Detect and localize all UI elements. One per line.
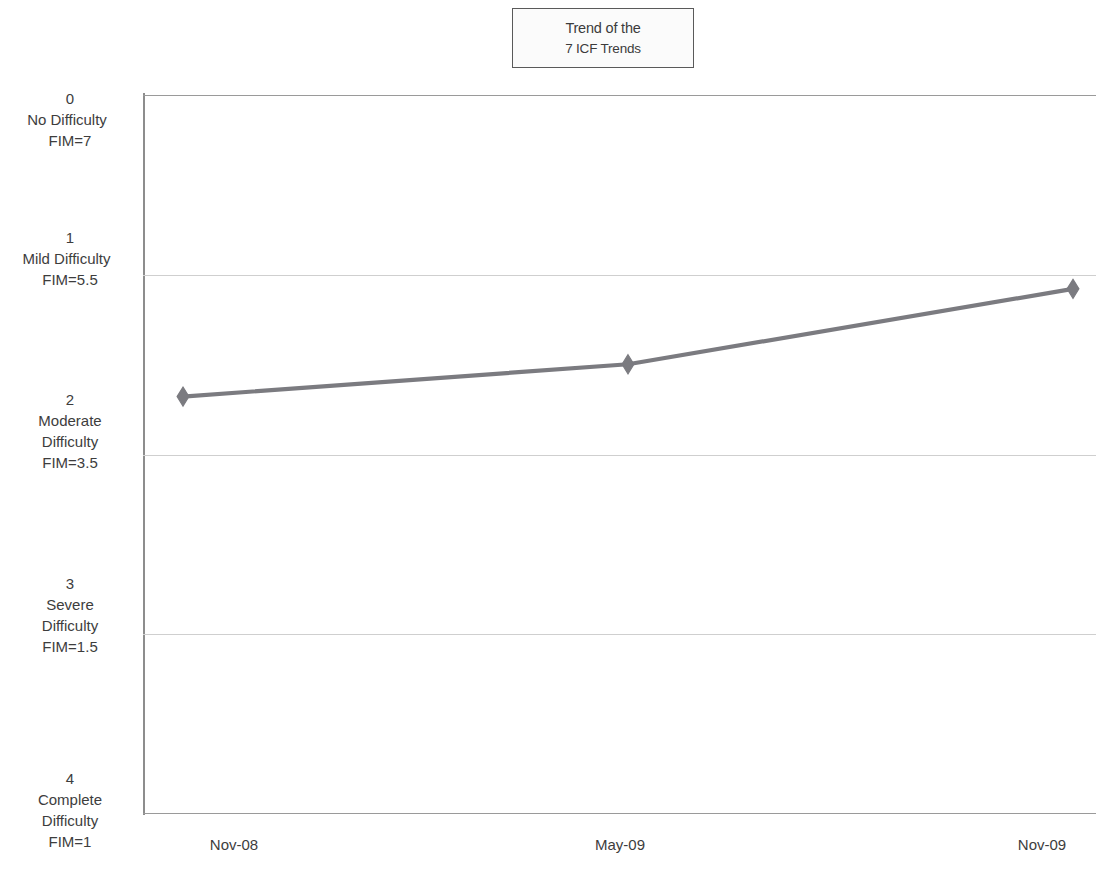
x-tick-label-2: May-09 (595, 836, 645, 853)
y-axis-line (143, 93, 145, 815)
series-data-point (1067, 279, 1079, 298)
series-data-point (622, 355, 634, 374)
y-tick-3-value: 3 (0, 573, 140, 594)
y-tick-4-fim: FIM=1 (0, 831, 140, 852)
y-tick-label-1: 1 Mild Difficulty FIM=5.5 (0, 227, 140, 290)
y-tick-2-fim: FIM=3.5 (0, 452, 140, 473)
x-tick-label-1: Nov-08 (210, 836, 258, 853)
y-tick-label-3: 3 Severe Difficulty FIM=1.5 (0, 573, 140, 657)
series-line-7-icf-trends (183, 289, 1073, 397)
gridline-0 (143, 95, 1096, 96)
y-tick-3-fim: FIM=1.5 (0, 636, 140, 657)
series-layer (0, 0, 1096, 873)
y-tick-3-category: Severe (0, 594, 140, 615)
gridline-1 (143, 275, 1096, 276)
y-tick-4-category: Complete (0, 789, 140, 810)
y-tick-0-fim: FIM=7 (0, 130, 140, 151)
chart-title-line-1: Trend of the (565, 18, 640, 39)
chart-title-line-2: 7 ICF Trends (565, 39, 641, 59)
x-tick-label-3: Nov-09 (1018, 836, 1066, 853)
y-tick-label-0: 0 No Difficulty FIM=7 (0, 88, 140, 151)
y-tick-3-category-cont: Difficulty (0, 615, 140, 636)
y-tick-2-category: Moderate (0, 410, 140, 431)
y-tick-4-value: 4 (0, 768, 140, 789)
y-tick-2-value: 2 (0, 389, 140, 410)
gridline-3 (143, 634, 1096, 635)
y-tick-label-2: 2 Moderate Difficulty FIM=3.5 (0, 389, 140, 473)
series-markers (177, 279, 1079, 406)
chart-title-box: Trend of the 7 ICF Trends (512, 8, 694, 68)
series-data-point (177, 387, 189, 406)
y-tick-2-category-cont: Difficulty (0, 431, 140, 452)
gridline-2 (143, 455, 1096, 456)
y-tick-1-value: 1 (0, 227, 140, 248)
y-tick-1-fim: FIM=5.5 (0, 269, 140, 290)
y-tick-0-value: 0 (0, 88, 140, 109)
y-tick-0-category: No Difficulty (0, 109, 140, 130)
y-tick-4-category-cont: Difficulty (0, 810, 140, 831)
y-tick-1-category: Mild Difficulty (0, 248, 140, 269)
x-axis-line (143, 813, 1096, 814)
y-tick-label-4: 4 Complete Difficulty FIM=1 (0, 768, 140, 852)
